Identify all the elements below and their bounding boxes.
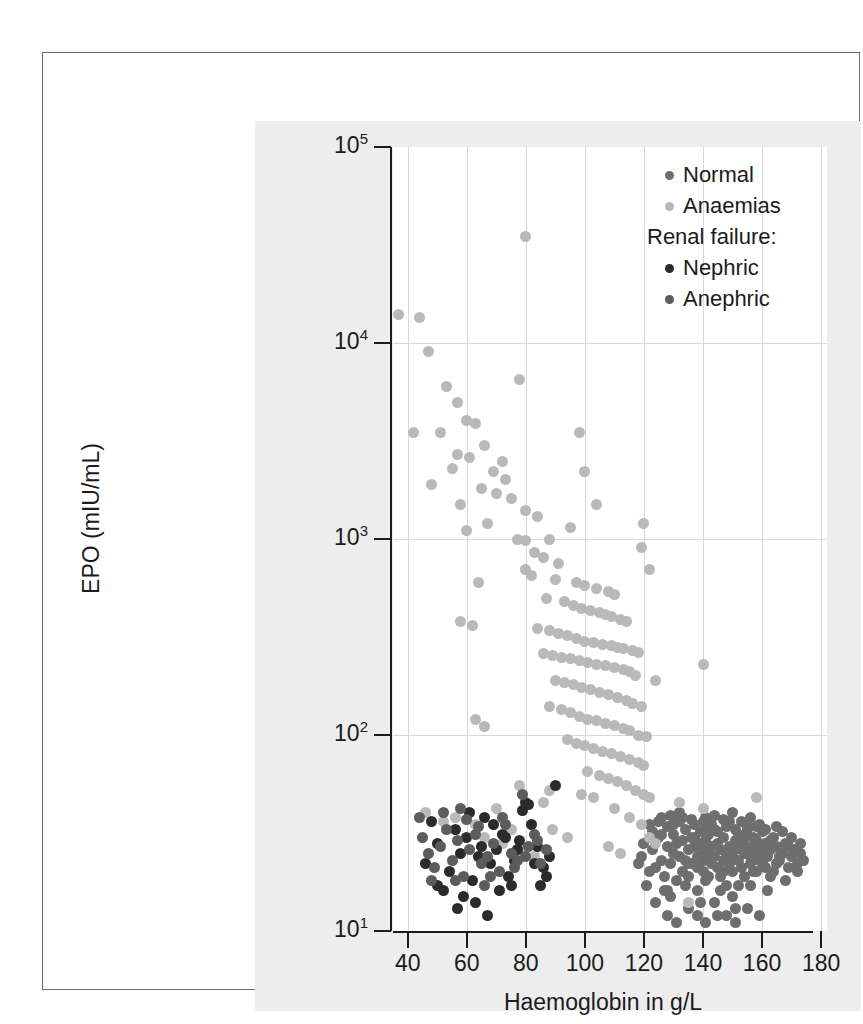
data-point-anaemias [644,832,655,843]
data-point-nephric [482,910,493,921]
data-point-anaemias [408,427,419,438]
data-point-normal [718,866,729,877]
data-point-normal [727,807,738,818]
x-tick-160 [761,931,763,948]
data-point-anephric [414,812,425,823]
data-point-anephric [450,875,461,886]
data-point-anephric [541,844,552,855]
data-point-normal [633,858,644,869]
legend-marker-icon [665,264,674,273]
data-point-normal [671,838,682,849]
data-point-normal [765,835,776,846]
data-point-normal [742,824,753,835]
data-point-normal [721,821,732,832]
data-point-normal [671,814,682,825]
data-point-nephric [532,841,543,852]
data-point-anephric [429,862,440,873]
data-point-anaemias [633,647,644,658]
data-point-anaemias [612,692,623,703]
data-point-anaemias [615,848,626,859]
data-point-normal [668,819,679,830]
data-point-normal [748,844,759,855]
data-point-normal [712,838,723,849]
data-point-nephric [467,875,478,886]
data-point-nephric [420,858,431,869]
data-point-normal [706,841,717,852]
data-point-normal [683,903,694,914]
data-point-nephric [479,812,490,823]
data-point-normal [665,858,676,869]
data-point-nephric [432,880,443,891]
x-tick-label-40: 40 [378,952,438,975]
data-point-anaemias [491,803,502,814]
data-point-anaemias [588,637,599,648]
figure-page: 101102103104105 406080100120140160180 Ha… [0,0,863,1024]
data-point-anaemias [529,851,540,862]
data-point-anaemias [600,609,611,620]
x-axis-title: Haemoglobin in g/L [393,989,813,1016]
data-point-anaemias [470,418,481,429]
data-point-anaemias [467,620,478,631]
data-point-anaemias [591,659,602,670]
data-point-normal [786,851,797,862]
data-point-normal [727,891,738,902]
data-point-anaemias [479,721,490,732]
data-point-normal [762,885,773,896]
data-point-normal [739,871,750,882]
data-point-anaemias [585,605,596,616]
data-point-anaemias [568,600,579,611]
data-point-normal [724,841,735,852]
data-point-normal [647,844,658,855]
data-point-anaemias [514,780,525,791]
data-point-anaemias [562,630,573,641]
data-point-anaemias [591,499,602,510]
data-point-normal [665,891,676,902]
data-point-anaemias [455,499,466,510]
data-point-normal [689,832,700,843]
data-point-normal [653,816,664,827]
data-point-anaemias [441,381,452,392]
data-point-anaemias [621,695,632,706]
data-point-normal [745,858,756,869]
data-point-anaemias [473,577,484,588]
data-point-anaemias [574,655,585,666]
y-tick-label-10: 101 [43,918,368,941]
x-tick-140 [702,931,704,948]
data-point-anaemias [470,819,481,830]
data-point-nephric [488,819,499,830]
data-point-normal [718,814,729,825]
data-point-anaemias [565,707,576,718]
data-point-normal [792,858,803,869]
data-point-normal [692,910,703,921]
data-point-anaemias [571,633,582,644]
x-tick-80 [525,931,527,948]
data-point-nephric [450,824,461,835]
data-point-anephric [529,829,540,840]
data-point-nephric [509,855,520,866]
data-point-normal [718,855,729,866]
data-point-anephric [470,829,481,840]
data-point-anaemias [644,792,655,803]
data-point-anephric [532,835,543,846]
data-point-anaemias [588,792,599,803]
data-point-anephric [473,821,484,832]
data-point-nephric [538,862,549,873]
data-point-anaemias [414,312,425,323]
data-point-normal [683,858,694,869]
data-point-normal [751,821,762,832]
data-point-anaemias [606,748,617,759]
legend-entry-renalfailure: Renal failure: [647,221,847,252]
data-point-normal [650,897,661,908]
data-point-anephric [426,875,437,886]
data-point-normal [739,848,750,859]
data-point-normal [748,866,759,877]
data-point-anaemias [565,653,576,664]
data-point-anaemias [571,738,582,749]
legend-label: Anaemias [683,193,781,218]
gridline-y-10000 [393,343,827,344]
data-point-normal [786,832,797,843]
data-point-normal [765,871,776,882]
x-tick-label-80: 80 [496,952,556,975]
data-point-anaemias [603,689,614,700]
data-point-anaemias [452,397,463,408]
